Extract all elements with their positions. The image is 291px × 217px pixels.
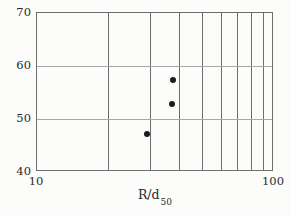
x-tick-label: 10 xyxy=(29,175,44,187)
grid-line-vertical xyxy=(150,13,151,170)
scatter-chart-figure: 40506070 10100 R/d50 xyxy=(0,0,291,217)
grid-line-horizontal xyxy=(37,119,272,120)
y-tick-label: 40 xyxy=(0,165,31,177)
grid-line-vertical xyxy=(108,13,109,170)
x-tick-label: 100 xyxy=(262,175,284,187)
x-axis-title-subscript: 50 xyxy=(161,197,172,207)
grid-line-vertical xyxy=(237,13,238,170)
grid-line-vertical xyxy=(179,13,180,170)
y-tick-label: 70 xyxy=(0,6,31,18)
y-tick-label: 50 xyxy=(0,112,31,124)
x-axis-title: R/d50 xyxy=(36,187,273,205)
x-axis-title-text: R/d xyxy=(138,187,160,202)
grid-line-vertical xyxy=(263,13,264,170)
plot-area xyxy=(36,12,273,171)
data-point xyxy=(169,101,175,107)
data-point xyxy=(170,77,176,83)
data-point xyxy=(144,131,150,137)
grid-line-vertical xyxy=(251,13,252,170)
grid-line-vertical xyxy=(221,13,222,170)
grid-line-horizontal xyxy=(37,66,272,67)
y-tick-label: 60 xyxy=(0,59,31,71)
grid-line-vertical xyxy=(202,13,203,170)
